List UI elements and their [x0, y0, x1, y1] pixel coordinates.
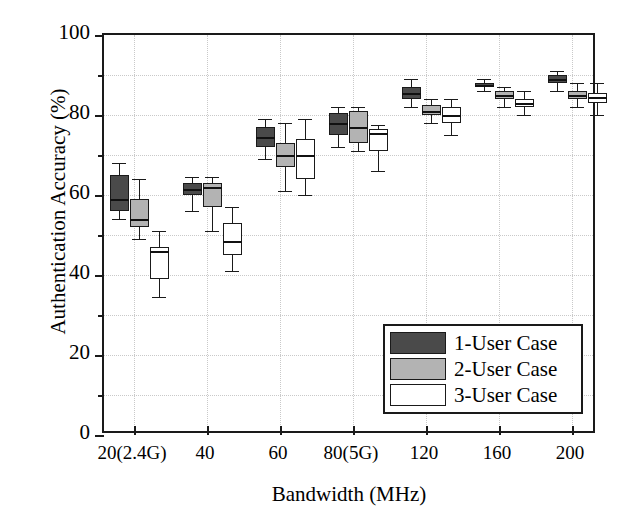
box-iqr	[130, 199, 149, 227]
whisker-cap-upper	[497, 87, 511, 88]
whisker-cap-upper	[132, 179, 146, 180]
median-line	[568, 95, 587, 97]
whisker-cap-upper	[331, 107, 345, 108]
whisker-upper	[577, 83, 578, 91]
x-tick-label: 40	[196, 442, 215, 464]
whisker-lower	[159, 279, 160, 297]
whisker-lower	[378, 151, 379, 171]
median-line	[183, 189, 202, 191]
gridline-horizontal	[104, 155, 593, 156]
x-tick	[353, 426, 355, 435]
boxplot-figure: Authentication Accuracy (%) Bandwidth (M…	[0, 0, 625, 527]
whisker-cap-lower	[517, 115, 531, 116]
median-line	[548, 79, 567, 81]
x-tick	[572, 426, 574, 435]
median-line	[150, 251, 169, 253]
box-iqr	[223, 223, 242, 255]
gridline-vertical	[353, 35, 354, 431]
y-tick-label: 60	[30, 182, 90, 203]
whisker-cap-upper	[404, 79, 418, 80]
whisker-upper	[451, 99, 452, 107]
whisker-cap-lower	[550, 91, 564, 92]
whisker-cap-upper	[258, 119, 272, 120]
legend: 1-User Case2-User Case3-User Case	[383, 324, 583, 414]
x-tick-label: 20(2.4G)	[97, 442, 166, 464]
whisker-cap-lower	[225, 271, 239, 272]
x-axis-title: Bandwidth (MHz)	[102, 482, 596, 507]
whisker-lower	[504, 99, 505, 107]
median-line	[296, 155, 315, 157]
median-line	[329, 123, 348, 125]
median-line	[588, 97, 607, 99]
whisker-cap-lower	[590, 115, 604, 116]
whisker-cap-lower	[424, 123, 438, 124]
whisker-lower	[285, 167, 286, 191]
y-tick-minor	[98, 315, 104, 317]
gridline-vertical	[207, 35, 208, 431]
x-tick-label: 120	[410, 442, 439, 464]
median-line	[515, 103, 534, 105]
whisker-cap-upper	[570, 83, 584, 84]
x-tick-label: 60	[269, 442, 288, 464]
box-iqr	[422, 105, 441, 115]
y-tick-label: 100	[30, 22, 90, 43]
y-tick-major	[95, 35, 104, 37]
whisker-upper	[597, 83, 598, 93]
whisker-upper	[524, 91, 525, 99]
whisker-upper	[265, 119, 266, 127]
whisker-cap-upper	[550, 71, 564, 72]
whisker-cap-upper	[112, 163, 126, 164]
box-iqr	[110, 175, 129, 211]
whisker-cap-upper	[205, 177, 219, 178]
gridline-horizontal	[104, 235, 593, 236]
gridline-horizontal	[104, 275, 593, 276]
box-iqr	[296, 139, 315, 179]
whisker-cap-lower	[477, 91, 491, 92]
median-line	[276, 155, 295, 157]
whisker-cap-lower	[404, 107, 418, 108]
whisker-lower	[451, 123, 452, 135]
whisker-lower	[192, 195, 193, 211]
whisker-cap-lower	[371, 171, 385, 172]
median-line	[495, 95, 514, 97]
whisker-lower	[305, 179, 306, 195]
whisker-cap-lower	[351, 151, 365, 152]
whisker-lower	[577, 99, 578, 107]
whisker-cap-upper	[371, 125, 385, 126]
median-line	[110, 199, 129, 201]
whisker-lower	[265, 147, 266, 159]
whisker-upper	[159, 231, 160, 247]
whisker-cap-upper	[477, 79, 491, 80]
y-tick-label: 20	[30, 342, 90, 363]
whisker-cap-lower	[112, 219, 126, 220]
median-line	[256, 137, 275, 139]
whisker-lower	[358, 143, 359, 151]
whisker-lower	[212, 207, 213, 231]
y-tick-major	[95, 195, 104, 197]
median-line	[203, 187, 222, 189]
median-line	[442, 115, 461, 117]
y-tick-minor	[98, 75, 104, 77]
gridline-horizontal	[104, 195, 593, 196]
x-tick-label: 80(5G)	[324, 442, 379, 464]
median-line	[475, 85, 494, 87]
whisker-cap-upper	[424, 99, 438, 100]
x-tick-label: 200	[556, 442, 585, 464]
y-tick-major	[95, 115, 104, 117]
y-tick-minor	[98, 235, 104, 237]
legend-label: 2-User Case	[454, 359, 557, 380]
y-tick-major	[95, 435, 104, 437]
whisker-cap-upper	[444, 99, 458, 100]
median-line	[369, 133, 388, 135]
x-tick	[207, 426, 209, 435]
gridline-horizontal	[104, 315, 593, 316]
whisker-cap-lower	[258, 159, 272, 160]
whisker-cap-lower	[570, 107, 584, 108]
whisker-lower	[411, 99, 412, 107]
gridline-vertical	[134, 35, 135, 431]
whisker-upper	[139, 179, 140, 199]
whisker-cap-upper	[590, 83, 604, 84]
median-line	[402, 93, 421, 95]
whisker-cap-lower	[152, 297, 166, 298]
legend-swatch	[390, 358, 446, 380]
